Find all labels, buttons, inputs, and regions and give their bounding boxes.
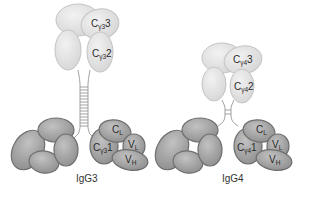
igg3-ch2-left-domain [55, 30, 81, 70]
igg3-fc-region: Cγ33 Cγ32 [55, 4, 121, 72]
igg3-molecule: Cγ33 Cγ32 Cγ31 CL [5, 4, 150, 184]
igg4-caption: IgG4 [222, 173, 244, 184]
igg3-hinge [74, 70, 94, 138]
igg4-fab-left [149, 118, 222, 176]
igg4-molecule: Cγ43 Cγ42 Cγ41 CL VL VH IgG4 [149, 43, 294, 184]
igg4-fc-region: Cγ43 Cγ42 [202, 43, 264, 103]
antibody-diagram: Cγ33 Cγ32 Cγ31 CL [0, 0, 312, 199]
igg4-ch2-left-domain [202, 67, 226, 101]
igg3-fab-left [5, 118, 78, 176]
igg4-hinge [218, 100, 238, 126]
igg3-caption: IgG3 [76, 173, 98, 184]
